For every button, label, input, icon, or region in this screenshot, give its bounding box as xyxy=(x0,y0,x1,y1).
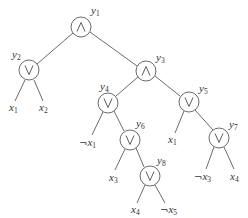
or-gate-circle xyxy=(209,128,229,148)
edge-y2-x2 xyxy=(34,80,43,101)
node-y1: y1 xyxy=(71,4,100,37)
node-label-y2: y2 xyxy=(11,48,21,62)
formula-tree: y1 y2 y3 y4 y5 y6 y7 y8 x1 x2 ¬ xyxy=(0,0,248,218)
or-gate-circle xyxy=(179,92,199,112)
leaf-x4-b: x4 xyxy=(130,203,140,217)
leaf-x3: x3 xyxy=(108,171,118,185)
node-label-y5: y5 xyxy=(198,82,208,96)
edge-y5-x1 xyxy=(175,111,184,133)
and-gate-circle xyxy=(71,17,91,37)
edge-y8-x4 xyxy=(137,185,145,203)
or-gate-circle xyxy=(120,130,140,150)
leaf-x2: x2 xyxy=(38,101,48,115)
node-label-y6: y6 xyxy=(135,117,145,131)
and-gate-circle xyxy=(136,61,156,81)
edge-y3-y4 xyxy=(116,77,138,96)
edge-y1-y3 xyxy=(90,32,137,66)
leaf-not-x5: ¬x5 xyxy=(160,203,177,217)
leaf-x1-a: x1 xyxy=(8,101,18,115)
node-label-y7: y7 xyxy=(228,118,238,132)
edge-y7-notx3 xyxy=(206,147,214,169)
leaf-not-x3: ¬x3 xyxy=(194,170,211,184)
edge-y7-x4 xyxy=(224,147,234,169)
or-gate-circle xyxy=(140,166,160,186)
node-y2: y2 xyxy=(11,48,39,80)
leaves: x1 x2 ¬x1 x3 x1 ¬x3 x4 x4 ¬x5 xyxy=(8,101,239,217)
leaf-x1-b: x1 xyxy=(167,133,177,147)
node-label-y8: y8 xyxy=(156,154,166,168)
edge-y1-y2 xyxy=(37,33,73,64)
node-label-y4: y4 xyxy=(99,80,109,94)
edge-y2-x1 xyxy=(15,80,25,101)
node-label-y1: y1 xyxy=(90,4,100,18)
node-y8: y8 xyxy=(140,154,166,186)
edge-y4-y6 xyxy=(114,111,124,131)
edge-y4-notx1 xyxy=(92,112,103,135)
edge-y8-notx5 xyxy=(155,185,165,203)
leaf-x4-a: x4 xyxy=(229,170,239,184)
or-gate-circle xyxy=(19,60,39,80)
node-y4: y4 xyxy=(98,80,118,113)
edge-y3-y5 xyxy=(155,76,180,96)
node-y3: y3 xyxy=(136,51,165,81)
node-y6: y6 xyxy=(120,117,145,150)
leaf-not-x1: ¬x1 xyxy=(79,136,96,150)
node-y5: y5 xyxy=(179,82,208,112)
node-y7: y7 xyxy=(209,118,238,148)
or-gate-circle xyxy=(98,93,118,113)
node-label-y3: y3 xyxy=(155,51,165,65)
edge-y5-y7 xyxy=(195,110,213,130)
edge-y6-x3 xyxy=(115,149,125,170)
edge-y6-y8 xyxy=(136,148,144,167)
